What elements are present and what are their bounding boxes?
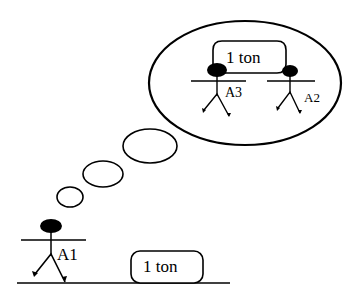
- thought-weight-label: 1 ton: [226, 48, 261, 67]
- head-icon: [207, 63, 227, 77]
- head-icon: [282, 65, 298, 77]
- ground-weight-label: 1 ton: [143, 257, 178, 276]
- thought-bubble: [149, 21, 341, 145]
- ground-weight-box: 1 ton: [131, 251, 203, 283]
- agent-label-a2: A2: [304, 90, 320, 105]
- agent-label-a3: A3: [225, 85, 242, 100]
- diagram-canvas: 1 ton A3 A2 A1 1 ton: [0, 0, 355, 297]
- agent-label-a1: A1: [57, 245, 78, 264]
- thought-trail-bubble-small: [57, 187, 83, 207]
- head-icon: [40, 219, 62, 233]
- thought-trail-bubble-large: [123, 129, 177, 163]
- stick-figure-a1: A1: [21, 219, 86, 282]
- stick-figure-a3: A3: [191, 63, 246, 117]
- thought-trail-bubble-medium: [83, 161, 123, 187]
